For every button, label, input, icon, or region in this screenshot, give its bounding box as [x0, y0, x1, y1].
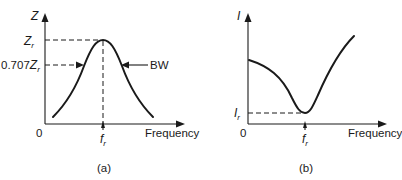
panel-b-origin-label: 0	[240, 127, 246, 139]
panel-a-fr-label: fr	[100, 132, 106, 148]
panel-b-current-plot: I Ir 0 fr Frequency (b)	[234, 9, 402, 174]
panel-a-caption: (a)	[97, 162, 111, 174]
panel-a-y-axis-arrow-icon	[42, 13, 49, 22]
panel-a-fr-sub: r	[103, 139, 106, 148]
panel-a-peak-label: Zr	[23, 34, 34, 50]
panel-b-caption: (b)	[299, 162, 313, 174]
panel-a-half-power-sub: r	[37, 65, 40, 74]
panel-a-peak-label-sub: r	[31, 41, 34, 50]
panel-b-fr-sub: r	[305, 139, 308, 148]
panel-b-min-label: Ir	[234, 106, 240, 122]
panel-b-min-label-sub: r	[237, 113, 240, 122]
panel-b-y-axis-arrow-icon	[245, 13, 252, 22]
panel-a-half-power-prefix: 0.707	[1, 59, 30, 71]
panel-a-half-power-label: 0.707Zr	[1, 58, 40, 74]
panel-b-y-axis-label: I	[237, 9, 241, 23]
panel-a-x-axis-label: Frequency	[145, 127, 200, 139]
panel-b-current-curve	[249, 36, 354, 113]
resonance-diagram: Z Zr 0.707Zr BW 0 fr Frequency	[0, 0, 402, 180]
panel-a-impedance-plot: Z Zr 0.707Zr BW 0 fr Frequency	[1, 9, 200, 174]
panel-a-y-axis-label: Z	[30, 9, 39, 23]
panel-b-x-axis-label: Frequency	[348, 127, 402, 139]
panel-b-fr-label: fr	[302, 132, 308, 148]
panel-a-bw-label: BW	[150, 59, 169, 71]
panel-a-origin-label: 0	[36, 127, 42, 139]
